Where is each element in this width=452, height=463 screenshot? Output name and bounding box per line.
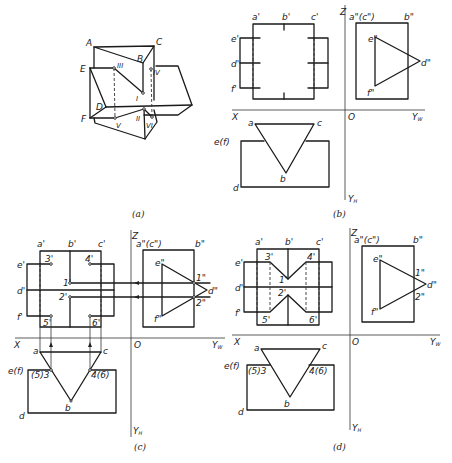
- label-dpp: d": [208, 286, 218, 296]
- edge-D-right: [106, 105, 192, 107]
- label-fp: f': [17, 312, 23, 322]
- label-1p: 1': [279, 275, 287, 285]
- label-6p: 6': [309, 315, 317, 325]
- label-VI: VI: [146, 122, 153, 130]
- point-IV: [150, 68, 153, 71]
- edge-II-bottom: [144, 109, 145, 139]
- label-1pp: 1": [415, 268, 425, 278]
- label-b: b: [284, 399, 290, 409]
- label-cp: c': [311, 12, 318, 22]
- label-dpp: d": [427, 280, 437, 290]
- label-dpp: d": [421, 58, 431, 68]
- side-prism-outline: [356, 23, 408, 99]
- label-fpp: f": [371, 307, 378, 317]
- label-4-6: 4(6): [309, 366, 327, 376]
- hidden-III-V: [114, 68, 115, 118]
- label-cp: c': [316, 237, 323, 247]
- arrow-left-1: [134, 281, 139, 285]
- label-F: F: [81, 114, 87, 124]
- label-bpp: b": [413, 235, 423, 245]
- label-2p: 2': [278, 288, 286, 298]
- label-dp: d': [17, 286, 25, 296]
- label-ap: a': [252, 12, 260, 22]
- label-2p: 2': [59, 292, 67, 302]
- label-fpp: f": [367, 88, 374, 98]
- label-d: d: [19, 411, 25, 421]
- point-III: [113, 67, 116, 70]
- label-fp: f': [231, 84, 237, 94]
- point-I: [142, 92, 145, 95]
- panel-b-three-view: Z X O YW YH a' b' c' e' d' f' a"(c") b" …: [214, 5, 431, 219]
- label-YW: YW: [212, 340, 224, 350]
- label-YH: YH: [352, 423, 362, 433]
- label-5-3: (5)3: [31, 370, 50, 380]
- point-6p: [89, 315, 92, 318]
- label-D: D: [96, 102, 103, 112]
- point-VI: [151, 116, 154, 119]
- label-epp: e": [368, 34, 378, 44]
- caption-d: (d): [333, 442, 346, 452]
- label-YW: YW: [430, 337, 442, 347]
- label-A: A: [85, 38, 92, 48]
- label-ef: e(f): [8, 366, 24, 376]
- label-bpp: b": [195, 239, 205, 249]
- label-ef: e(f): [224, 361, 240, 371]
- label-bp: b': [282, 12, 290, 22]
- label-acpp: a"(c"): [136, 239, 162, 249]
- label-X: X: [233, 337, 241, 347]
- label-5-3: (5)3: [248, 366, 267, 376]
- label-YW: YW: [412, 112, 424, 122]
- label-3p: 3': [265, 252, 273, 262]
- label-ep: e': [235, 258, 243, 268]
- point-II: [143, 108, 146, 111]
- label-V: V: [116, 122, 122, 130]
- label-bpp: b": [404, 12, 414, 22]
- label-4p: 4': [307, 252, 315, 262]
- label-5p: 5': [262, 315, 270, 325]
- label-acpp: a"(c"): [349, 12, 375, 22]
- label-fpp: f": [154, 314, 161, 324]
- caption-b: (b): [333, 209, 346, 219]
- point-b: [70, 400, 72, 402]
- label-fp: f': [235, 308, 241, 318]
- label-c: c: [103, 346, 108, 356]
- label-X: X: [13, 340, 21, 350]
- label-c: c: [322, 341, 327, 351]
- edge-III-I: [114, 68, 143, 93]
- panel-c-construction: Z X O YW YH a' b' c' e': [8, 230, 225, 452]
- point-V: [114, 117, 117, 120]
- label-YH: YH: [348, 194, 358, 204]
- point-1pp: [193, 282, 196, 285]
- top-triangle: [255, 124, 314, 173]
- label-C: C: [156, 37, 163, 47]
- caption-a: (a): [132, 209, 145, 219]
- label-1p: 1': [63, 278, 71, 288]
- label-a: a: [248, 118, 254, 128]
- label-IV: IV: [153, 69, 161, 77]
- label-III: III: [117, 62, 123, 70]
- label-a: a: [33, 346, 39, 356]
- prism-top-face: [94, 46, 154, 63]
- label-5p: 5': [43, 318, 51, 328]
- label-4p: 4': [85, 254, 93, 264]
- caption-c: (c): [134, 442, 147, 452]
- label-ef: e(f): [214, 137, 230, 147]
- label-II: II: [136, 115, 140, 123]
- label-cp: c': [98, 239, 105, 249]
- label-acpp: a"(c"): [354, 235, 380, 245]
- point-2pp: [193, 296, 196, 299]
- label-d: d: [233, 183, 239, 193]
- label-ep: e': [231, 34, 239, 44]
- label-ap: a': [37, 239, 45, 249]
- label-d: d: [238, 407, 244, 417]
- label-b: b: [65, 403, 71, 413]
- front-prism-outline: [253, 24, 314, 99]
- label-I: I: [136, 95, 138, 103]
- label-dp: d': [235, 283, 243, 293]
- label-E: E: [80, 64, 86, 74]
- hidden-IV-VI: [151, 69, 152, 117]
- arrow-up-4: [88, 342, 92, 347]
- side-prism-outline: [362, 246, 414, 322]
- label-X: X: [231, 112, 239, 122]
- label-O: O: [352, 337, 359, 347]
